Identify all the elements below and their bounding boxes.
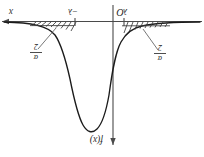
x-axis-label: x — [8, 7, 14, 17]
left-tail-leader — [143, 29, 158, 50]
figure-canvas: x O λ −λ f(x) α 2 α 2 — [0, 0, 204, 157]
left-tail-numerator: α — [157, 54, 162, 63]
density-curve — [4, 22, 200, 132]
right-tail-denominator: 2 — [34, 42, 38, 51]
y-axis-label: f(x) — [90, 134, 103, 145]
y-axis-arrow-icon — [110, 138, 115, 145]
critical-value-right-label: −λ — [68, 7, 78, 17]
right-tail-numerator: α — [33, 53, 38, 62]
right-tail-fraction: α 2 — [30, 42, 42, 62]
rotated-figure-group: x O λ −λ f(x) α 2 α 2 — [0, 0, 204, 157]
right-tail-hatching — [30, 22, 76, 31]
right-tail-leader — [38, 28, 56, 49]
left-tail-denominator: 2 — [158, 43, 162, 52]
left-tail-fraction: α 2 — [154, 43, 166, 63]
plot-svg: x O λ −λ f(x) α 2 α 2 — [0, 0, 204, 157]
density-curve-group — [4, 22, 200, 132]
critical-value-left-label: λ — [123, 7, 128, 17]
leader-lines-group — [38, 28, 158, 50]
